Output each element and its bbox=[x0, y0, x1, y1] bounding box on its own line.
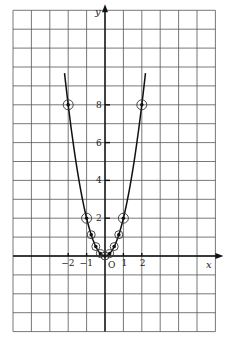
y-axis-label: y bbox=[94, 6, 101, 17]
x-tick-label: 2 bbox=[140, 258, 146, 268]
data-point bbox=[122, 216, 126, 220]
x-axis-label: x bbox=[206, 259, 212, 270]
y-tick-label: 2 bbox=[96, 213, 102, 223]
data-point bbox=[89, 233, 93, 237]
data-point bbox=[66, 103, 70, 107]
x-tick-label: 1 bbox=[121, 258, 127, 268]
data-point bbox=[94, 245, 98, 249]
tick-labels: −2−1122468 bbox=[61, 100, 145, 268]
data-point bbox=[140, 103, 144, 107]
parabola-chart: −2−1122468 x y O bbox=[0, 0, 225, 343]
data-point bbox=[117, 233, 121, 237]
y-tick-label: 6 bbox=[96, 138, 102, 148]
grid bbox=[13, 10, 215, 331]
y-arrow-icon bbox=[102, 4, 108, 12]
y-tick-label: 8 bbox=[96, 100, 102, 110]
y-tick-label: 4 bbox=[96, 175, 102, 185]
x-tick-label: −1 bbox=[80, 258, 93, 268]
origin-label: O bbox=[108, 260, 115, 270]
axes bbox=[13, 4, 223, 331]
data-point bbox=[108, 252, 112, 256]
x-tick-label: −2 bbox=[61, 258, 74, 268]
x-arrow-icon bbox=[215, 253, 223, 259]
data-point bbox=[112, 245, 116, 249]
data-point bbox=[85, 216, 89, 220]
